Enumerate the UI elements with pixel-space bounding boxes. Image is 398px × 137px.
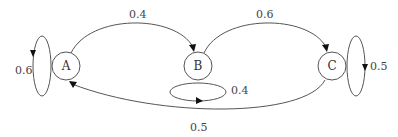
node-c: C	[318, 52, 346, 80]
edge-label-a-a: 0.6	[15, 64, 33, 77]
edge-c-to-c: 0.5	[347, 36, 388, 96]
arrowhead-icon	[189, 44, 196, 52]
node-b: B	[184, 52, 212, 80]
edge-a-to-b: 0.4	[71, 8, 196, 53]
node-label-c: C	[327, 59, 336, 73]
arrowhead-icon	[322, 44, 329, 52]
edge-b-to-b: 0.4	[170, 83, 249, 104]
node-a: A	[52, 52, 80, 80]
node-label-b: B	[194, 59, 203, 73]
edge-label-a-b: 0.4	[129, 8, 147, 21]
arrowhead-icon	[362, 64, 368, 71]
edge-label-b-c: 0.6	[256, 8, 274, 21]
edge-b-to-c: 0.6	[204, 8, 329, 53]
edge-a-to-a: 0.6	[15, 36, 51, 96]
state-diagram: 0.6 0.4 0.6 0.4 0.5 0.5 A B C	[0, 0, 398, 137]
edge-c-to-a: 0.5	[69, 80, 325, 134]
node-label-a: A	[61, 59, 71, 73]
arrowhead-icon	[196, 97, 203, 104]
edge-label-c-c: 0.5	[370, 60, 388, 73]
edge-label-c-a: 0.5	[190, 121, 208, 134]
arrowhead-icon	[30, 50, 36, 57]
arrowhead-icon	[69, 81, 77, 88]
edge-label-b-b: 0.4	[231, 84, 249, 97]
